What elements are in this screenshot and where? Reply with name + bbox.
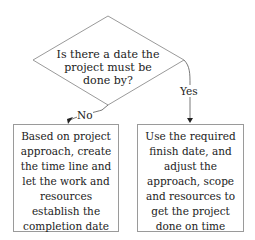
decision-line: done by? [48, 74, 168, 87]
outcome-line: and resources to [138, 189, 243, 204]
outcome-line: the time line and [14, 159, 118, 174]
decision-line: project must be [48, 61, 168, 74]
no-outcome-box: Based on project approach, create the ti… [13, 124, 119, 232]
yes-outcome-box: Use the required finish date, and adjust… [137, 124, 244, 232]
yes-arrowhead-icon [187, 118, 193, 123]
outcome-line: Use the required [138, 129, 243, 144]
no-edge-label: No [77, 109, 93, 121]
outcome-line: completion date [14, 219, 118, 234]
outcome-line: Based on project [14, 129, 118, 144]
decision-question: Is there a date the project must be done… [48, 48, 168, 87]
outcome-line: done on time [138, 219, 243, 234]
outcome-line: get the project [138, 204, 243, 219]
outcome-line: approach, scope [138, 174, 243, 189]
outcome-line: resources [14, 189, 118, 204]
outcome-line: finish date, and [138, 144, 243, 159]
outcome-line: adjust the [138, 159, 243, 174]
decision-line: Is there a date the [48, 48, 168, 61]
yes-edge-label: Yes [180, 85, 198, 97]
outcome-line: approach, create [14, 144, 118, 159]
outcome-line: establish the [14, 204, 118, 219]
no-arrowhead-icon [67, 117, 73, 124]
outcome-line: let the work and [14, 174, 118, 189]
